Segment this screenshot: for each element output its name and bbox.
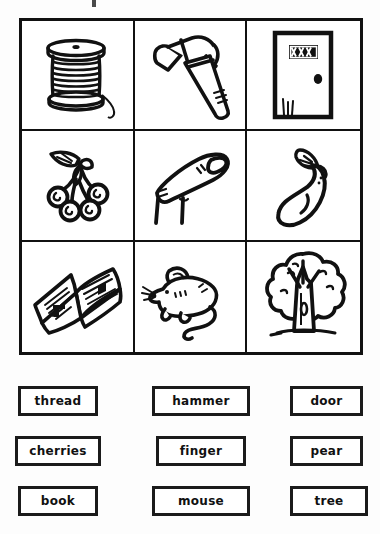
picture-cell-mouse[interactable] bbox=[135, 242, 248, 352]
finger-icon bbox=[143, 139, 237, 231]
word-box-cherries[interactable]: cherries bbox=[15, 436, 101, 466]
picture-cell-cherries[interactable] bbox=[22, 131, 135, 241]
word-label-tree: tree bbox=[314, 495, 343, 507]
word-box-thread[interactable]: thread bbox=[18, 386, 98, 416]
word-label-cherries: cherries bbox=[29, 445, 86, 457]
word-box-mouse[interactable]: mouse bbox=[152, 486, 250, 516]
thread-spool-icon bbox=[31, 29, 123, 121]
picture-cell-book[interactable] bbox=[22, 242, 135, 352]
word-label-book: book bbox=[41, 495, 75, 507]
word-label-hammer: hammer bbox=[172, 395, 230, 407]
picture-cell-thread[interactable] bbox=[22, 21, 135, 131]
hammer-icon bbox=[144, 27, 236, 123]
word-box-book[interactable]: book bbox=[18, 486, 98, 516]
word-bank: thread hammer door cherries finger pear … bbox=[0, 384, 380, 528]
word-label-door: door bbox=[310, 395, 342, 407]
picture-cell-pear[interactable] bbox=[247, 131, 360, 241]
tree-icon bbox=[257, 249, 351, 345]
word-box-door[interactable]: door bbox=[290, 386, 363, 416]
picture-grid bbox=[19, 18, 363, 355]
word-box-pear[interactable]: pear bbox=[290, 436, 363, 466]
door-icon bbox=[265, 27, 343, 123]
word-box-hammer[interactable]: hammer bbox=[152, 386, 250, 416]
word-label-mouse: mouse bbox=[178, 495, 224, 507]
word-box-tree[interactable]: tree bbox=[290, 486, 368, 516]
picture-cell-door[interactable] bbox=[247, 21, 360, 131]
pear-icon bbox=[260, 138, 348, 232]
word-label-pear: pear bbox=[311, 445, 343, 457]
picture-cell-finger[interactable] bbox=[135, 131, 248, 241]
word-label-thread: thread bbox=[35, 395, 82, 407]
picture-cell-tree[interactable] bbox=[247, 242, 360, 352]
picture-cell-hammer[interactable] bbox=[135, 21, 248, 131]
cherries-icon bbox=[31, 139, 123, 231]
word-label-finger: finger bbox=[180, 445, 222, 457]
word-box-finger[interactable]: finger bbox=[156, 436, 246, 466]
open-book-icon bbox=[29, 253, 125, 341]
scan-artifact-mark bbox=[92, 0, 96, 7]
mouse-icon bbox=[141, 251, 239, 343]
